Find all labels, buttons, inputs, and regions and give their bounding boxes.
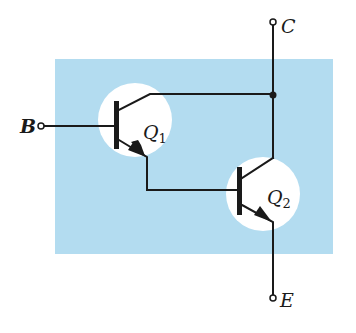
collector-label: C	[281, 15, 296, 37]
emitter-label: E	[279, 289, 294, 311]
collector-terminal[interactable]	[270, 19, 276, 25]
darlington-pair-diagram: B C E Q1 Q2	[0, 0, 356, 333]
collector-junction-dot	[270, 92, 277, 99]
emitter-terminal[interactable]	[270, 295, 276, 301]
package-background	[55, 59, 333, 254]
base-label: B	[19, 115, 36, 137]
base-terminal[interactable]	[38, 123, 44, 129]
q2-base-bar	[237, 167, 242, 215]
q1-base-bar	[114, 101, 119, 149]
